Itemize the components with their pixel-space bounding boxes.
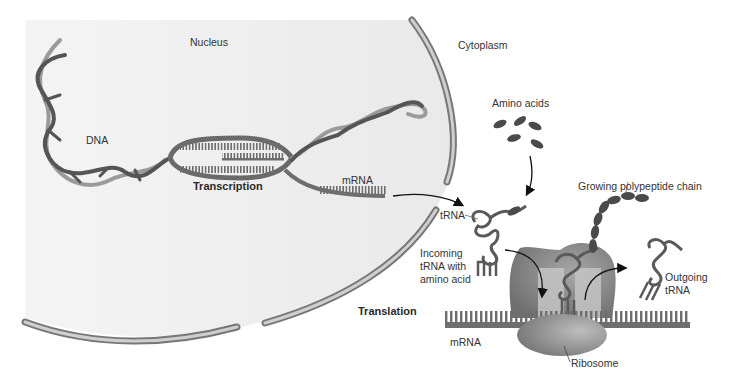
amino-acids-label: Amino acids bbox=[492, 97, 549, 109]
ribosome-label: Ribosome bbox=[571, 357, 618, 369]
nucleus-label: Nucleus bbox=[190, 36, 228, 48]
outgoing-trna-label: Outgoing tRNA bbox=[665, 271, 708, 297]
dna-label: DNA bbox=[86, 134, 108, 146]
cytoplasm-label: Cytoplasm bbox=[458, 39, 508, 51]
trna-label: tRNA bbox=[440, 209, 465, 221]
mrna-nucleus-label: mRNA bbox=[342, 174, 373, 186]
translation-label: Translation bbox=[358, 305, 417, 317]
ribosome-small-subunit bbox=[517, 314, 607, 356]
transcription-label: Transcription bbox=[193, 180, 263, 192]
polypeptide-chain bbox=[589, 192, 649, 253]
amino-acids bbox=[492, 114, 545, 150]
mrna-cytoplasm-label: mRNA bbox=[450, 336, 481, 348]
growing-chain-label: Growing polypeptide chain bbox=[578, 180, 702, 192]
incoming-trna-label: Incoming tRNA with amino acid bbox=[420, 247, 471, 286]
gene-expression-diagram: Nucleus Cytoplasm DNA Transcription mRNA… bbox=[0, 0, 734, 386]
amino-acid-arrow bbox=[527, 156, 532, 194]
